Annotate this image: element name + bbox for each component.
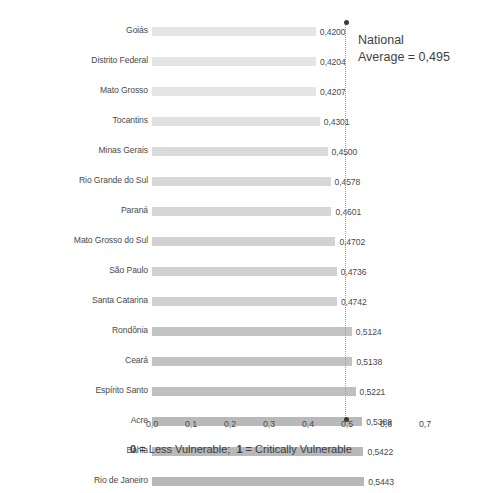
bar-track: 0,4601 <box>152 207 464 216</box>
category-label: Rio Grande do Sul <box>0 175 148 186</box>
bar <box>152 387 356 396</box>
category-label: Espírito Santo <box>0 385 148 396</box>
x-tick-label: 0,3 <box>263 419 275 429</box>
x-tick-label: 0,5 <box>341 419 353 429</box>
bar-track: 0,4301 <box>152 117 464 126</box>
bar-track: 0,4207 <box>152 87 464 96</box>
bar-track: 0,4578 <box>152 177 464 186</box>
category-label: Paraná <box>0 205 148 216</box>
bar-track: 0,4702 <box>152 237 464 246</box>
bar-row: São Paulo0,4736 <box>0 265 482 280</box>
category-label: Goiás <box>0 25 148 36</box>
bar <box>152 177 331 186</box>
x-tick-label: 0,1 <box>185 419 197 429</box>
bar-value-label: 0,5221 <box>360 387 386 398</box>
bar <box>152 237 335 246</box>
category-label: Tocantins <box>0 115 148 126</box>
bar-row: Rondônia0,5124 <box>0 325 482 340</box>
bar-value-label: 0,4578 <box>335 177 361 188</box>
x-tick-label: 0,7 <box>419 419 431 429</box>
bar-track: 0,5221 <box>152 387 464 396</box>
bar-value-label: 0,5443 <box>368 477 394 488</box>
plot-area: Goiás0,4200Distrito Federal0,4204Mato Gr… <box>0 25 482 417</box>
category-label: Rio de Janeiro <box>0 475 148 486</box>
x-tick-label: 0,0 <box>146 419 158 429</box>
bar-value-label: 0,4200 <box>320 27 346 38</box>
x-axis-caption: 0 = Less Vulnerable; 1 = Critically Vuln… <box>0 443 482 455</box>
bar <box>152 477 364 486</box>
x-tick-label: 0,6 <box>380 419 392 429</box>
bar <box>152 267 337 276</box>
bar-track: 0,4500 <box>152 147 464 156</box>
national-average-annotation: National Average = 0,495 <box>358 32 450 65</box>
bar-row: Espírito Santo0,5221 <box>0 385 482 400</box>
bar-row: Tocantins0,4301 <box>0 115 482 130</box>
bar-value-label: 0,5124 <box>356 327 382 338</box>
category-label: Rondônia <box>0 325 148 336</box>
category-label: Mato Grosso <box>0 85 148 96</box>
bar-row: Rio Grande do Sul0,4578 <box>0 175 482 190</box>
bar-track: 0,5443 <box>152 477 464 486</box>
bar-track: 0,4736 <box>152 267 464 276</box>
bar-row: Mato Grosso do Sul0,4702 <box>0 235 482 250</box>
x-axis-caption-text: 0 = Less Vulnerable; 1 = Critically Vuln… <box>130 443 352 455</box>
bar <box>152 297 337 306</box>
x-axis-ticks: 0,00,10,20,30,40,50,60,7 <box>0 419 482 441</box>
bar <box>152 27 316 36</box>
category-label: São Paulo <box>0 265 148 276</box>
x-tick-label: 0,2 <box>224 419 236 429</box>
national-average-line1: National <box>358 32 450 49</box>
bar-row: Santa Catarina0,4742 <box>0 295 482 310</box>
bar <box>152 147 328 156</box>
category-label: Santa Catarina <box>0 295 148 306</box>
national-average-line2: Average = 0,495 <box>358 49 450 66</box>
bar-row: Paraná0,4601 <box>0 205 482 220</box>
bar <box>152 207 331 216</box>
x-tick-label: 0,4 <box>302 419 314 429</box>
bar <box>152 57 316 66</box>
bar <box>152 357 352 366</box>
reference-line-top-marker <box>344 20 349 25</box>
category-label: Ceará <box>0 355 148 366</box>
bar-value-label: 0,5138 <box>356 357 382 368</box>
bar-value-label: 0,4601 <box>335 207 361 218</box>
national-average-reference-line <box>345 22 346 420</box>
category-label: Mato Grosso do Sul <box>0 235 148 246</box>
bar-row: Mato Grosso0,4207 <box>0 85 482 100</box>
bar-row: Rio de Janeiro0,5443 <box>0 475 482 490</box>
bar-row: Ceará0,5138 <box>0 355 482 370</box>
bar-value-label: 0,4204 <box>320 57 346 68</box>
bar-value-label: 0,4702 <box>339 237 365 248</box>
vulnerability-bar-chart: Goiás0,4200Distrito Federal0,4204Mato Gr… <box>0 0 482 493</box>
bar <box>152 327 352 336</box>
bar <box>152 87 316 96</box>
bar-value-label: 0,4207 <box>320 87 346 98</box>
bar <box>152 117 320 126</box>
category-label: Distrito Federal <box>0 55 148 66</box>
bar-track: 0,5124 <box>152 327 464 336</box>
category-label: Minas Gerais <box>0 145 148 156</box>
bar-track: 0,5138 <box>152 357 464 366</box>
bar-track: 0,4742 <box>152 297 464 306</box>
bar-row: Minas Gerais0,4500 <box>0 145 482 160</box>
